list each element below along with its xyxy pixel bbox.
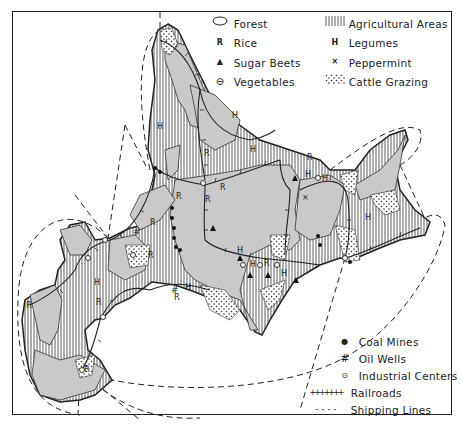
legend-item-cattle-grazing: Cattle Grazing bbox=[325, 72, 448, 91]
svg-text:R: R bbox=[176, 192, 182, 201]
filled-circle-icon: ● bbox=[335, 334, 355, 350]
hatch-swatch-icon bbox=[325, 15, 345, 34]
svg-text:H: H bbox=[157, 122, 163, 131]
svg-text:R: R bbox=[84, 365, 90, 374]
svg-text:R: R bbox=[26, 301, 32, 310]
svg-text:#: # bbox=[133, 227, 141, 237]
legend-bottom: ● Coal Mines # Oil Wells ⊙ Industrial Ce… bbox=[305, 333, 457, 418]
svg-text:H: H bbox=[185, 283, 191, 292]
svg-text:H: H bbox=[322, 174, 328, 183]
circle-minus-icon: ⊖ bbox=[210, 73, 230, 92]
svg-text:H: H bbox=[305, 170, 311, 179]
triangle-icon: ▲ bbox=[210, 53, 230, 72]
circle-dot-icon: ⊙ bbox=[335, 368, 355, 384]
peppermint-markers: × bbox=[302, 193, 309, 202]
rice-r-icon: R bbox=[210, 34, 230, 53]
svg-text:R: R bbox=[150, 218, 156, 227]
legend-item-industrial-centers: ⊙ Industrial Centers bbox=[335, 367, 457, 384]
legend-item-sugar-beets: ▲ Sugar Beets bbox=[210, 53, 301, 72]
legend-item-agricultural-areas: Agricultural Areas bbox=[325, 14, 448, 33]
legend-item-vegetables: ⊖ Vegetables bbox=[210, 72, 301, 91]
svg-text:R: R bbox=[220, 183, 226, 192]
svg-text:H: H bbox=[237, 246, 243, 255]
hash-icon: # bbox=[335, 351, 355, 367]
legend-item-railroads: +++++++ Railroads bbox=[305, 384, 457, 401]
legend-item-rice: R Rice bbox=[210, 33, 301, 52]
cross-icon: × bbox=[325, 53, 345, 72]
svg-text:R: R bbox=[148, 251, 154, 260]
legend-top: Forest R Rice ▲ Sugar Beets ⊖ Vegetables bbox=[210, 14, 301, 91]
legend-item-peppermint: × Peppermint bbox=[325, 53, 448, 72]
dashed-line-icon: - - - - bbox=[305, 402, 347, 418]
svg-text:H: H bbox=[250, 260, 256, 269]
svg-text:R: R bbox=[307, 153, 313, 162]
legend-item-coal-mines: ● Coal Mines bbox=[335, 333, 457, 350]
legend-item-forest: Forest bbox=[210, 14, 301, 33]
svg-text:H: H bbox=[281, 269, 287, 278]
svg-text:R: R bbox=[264, 259, 270, 268]
legumes-h-icon: H bbox=[325, 34, 345, 53]
svg-text:H: H bbox=[250, 145, 256, 154]
railroad-line-icon: +++++++ bbox=[305, 385, 347, 401]
svg-text:H: H bbox=[94, 278, 100, 287]
svg-text:H: H bbox=[232, 111, 238, 120]
legend-item-shipping-lines: - - - - Shipping Lines bbox=[305, 401, 457, 418]
svg-text:R: R bbox=[96, 298, 102, 307]
forest-oval-icon bbox=[210, 15, 230, 34]
svg-text:#: # bbox=[171, 285, 179, 295]
legend-item-legumes: H Legumes bbox=[325, 33, 448, 52]
legend-item-oil-wells: # Oil Wells bbox=[335, 350, 457, 367]
svg-text:R: R bbox=[205, 195, 211, 204]
svg-text:H: H bbox=[365, 213, 371, 222]
dots-swatch-icon bbox=[325, 73, 345, 92]
legend-top-right: Agricultural Areas H Legumes × Peppermin… bbox=[325, 14, 448, 91]
svg-text:R: R bbox=[204, 149, 210, 158]
svg-text:×: × bbox=[302, 193, 309, 202]
